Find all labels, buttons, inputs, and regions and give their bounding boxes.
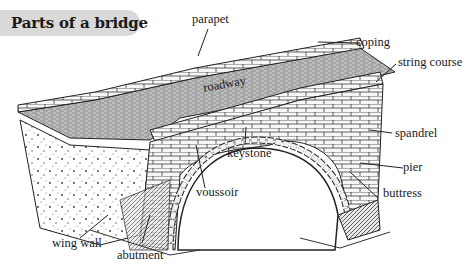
label-buttress: buttress [383,186,422,201]
label-voussoir: voussoir [196,185,238,200]
label-coping: coping [356,35,390,50]
label-wing-wall: wing wall [52,236,102,251]
label-parapet: parapet [192,12,229,27]
label-keystone: keystone [227,146,271,161]
label-pier: pier [403,160,422,175]
label-spandrel: spandrel [395,126,437,141]
label-string-course: string course [398,55,462,70]
label-abutment: abutment [117,248,164,263]
